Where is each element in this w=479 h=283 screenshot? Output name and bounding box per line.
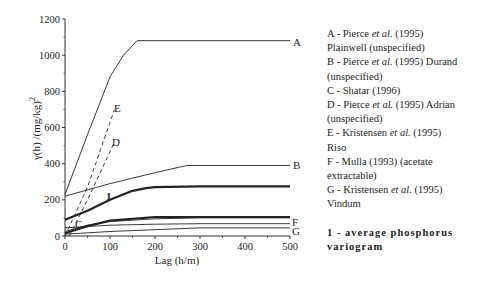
legend-line: C - Shatar (1996) (327, 84, 477, 98)
legend-line: E - Kristensen et al. (1995) (327, 126, 477, 140)
legend-lines: A - Pierce et al. (1995)Plainwell (unspe… (327, 27, 477, 212)
curve-label-a: A (293, 36, 301, 48)
y-tick-label: 600 (44, 122, 60, 133)
y-tick-label: 200 (44, 194, 60, 205)
curve-label-d: D (112, 136, 120, 148)
curve-label-b: B (293, 159, 300, 171)
curve-c (65, 218, 290, 232)
legend-line: (unspecified) (327, 70, 477, 84)
curve-label-c: C (75, 218, 82, 230)
legend: A - Pierce et al. (1995)Plainwell (unspe… (327, 27, 477, 254)
curve-g (65, 228, 290, 234)
curve-label-g: G (292, 225, 300, 237)
curve-c-lower (65, 217, 290, 233)
legend-average-line2: variogram (327, 240, 477, 254)
legend-line: Riso (327, 141, 477, 155)
legend-line: A - Pierce et al. (1995) (327, 27, 477, 41)
x-axis-title: Lag (h/m) (155, 254, 200, 267)
legend-line: G - Kristensen et al. (1995) (327, 183, 477, 197)
axes (65, 19, 290, 236)
x-tick-label: 200 (147, 241, 163, 252)
y-axis-title: γ(h) /(mg/kg)2 (28, 97, 43, 161)
legend-line: Plainwell (unspecified) (327, 41, 477, 55)
curve-a (65, 41, 290, 195)
y-tick-label: 1200 (39, 14, 60, 25)
y-ticks: 020040060080010001200 (39, 14, 65, 242)
x-tick-label: 500 (282, 241, 298, 252)
y-tick-label: 1000 (39, 50, 60, 61)
curve-1 (65, 186, 290, 219)
curve-label-1: 1 (106, 190, 112, 202)
legend-line: F - Mulla (1993) (acetate (327, 155, 477, 169)
legend-line: B - Pierce et al. (1995) Durand (327, 55, 477, 69)
legend-average-line1: 1 - average phosphorus (327, 226, 477, 240)
x-tick-label: 100 (102, 241, 118, 252)
curve-label-e: E (114, 102, 121, 114)
legend-line: Vindum (327, 197, 477, 211)
legend-line: (unspecified) (327, 112, 477, 126)
curves (65, 41, 290, 236)
x-tick-label: 0 (62, 241, 67, 252)
x-tick-label: 400 (237, 241, 253, 252)
x-ticks: 0100200300400500 (62, 236, 298, 252)
legend-line: D - Pierce et al. (1995) Adrian (327, 98, 477, 112)
legend-line: extractable) (327, 169, 477, 183)
y-tick-label: 400 (44, 158, 60, 169)
curve-b (65, 166, 290, 197)
y-tick-label: 0 (55, 231, 60, 242)
y-tick-label: 800 (44, 86, 60, 97)
x-tick-label: 300 (192, 241, 208, 252)
